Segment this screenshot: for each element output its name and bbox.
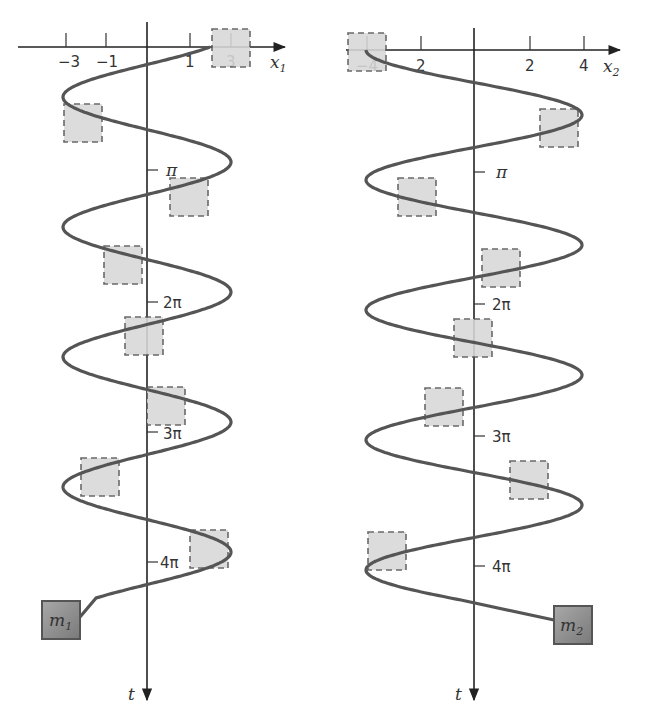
svg-text:4: 4: [579, 57, 589, 75]
svg-text:4π: 4π: [160, 554, 179, 572]
svg-text:π: π: [165, 160, 178, 180]
t-axis-label-left: t: [128, 684, 135, 704]
svg-text:2: 2: [525, 57, 535, 75]
t-ticks-right: π 2π 3π 4π: [474, 162, 511, 576]
left-panel: −3 −1 1 3 x1 π 2π 3π 4π t m1: [18, 22, 287, 704]
ghost-mass-position: [368, 532, 406, 570]
svg-text:π: π: [495, 162, 508, 182]
right-panel: −4 2 2 4 x2 π 2π 3π 4π t m2: [346, 28, 620, 704]
ghost-mass-position: [454, 319, 492, 357]
svg-text:2π: 2π: [492, 296, 511, 314]
t-axis-label-right: t: [455, 684, 462, 704]
ghost-mass-position: [425, 388, 463, 426]
svg-text:3π: 3π: [492, 428, 511, 446]
x1-axis-label: x1: [270, 52, 287, 75]
ghost-mass-position: [64, 104, 102, 142]
x2-ticks: −4 2 2 4: [356, 36, 589, 75]
oscillation-diagram: −3 −1 1 3 x1 π 2π 3π 4π t m1: [0, 0, 648, 728]
x2-axis-label: x2: [603, 56, 620, 79]
svg-text:2π: 2π: [163, 294, 182, 312]
svg-text:4π: 4π: [492, 558, 511, 576]
tick-label: −3: [58, 53, 80, 71]
t-ticks-left: π 2π 3π 4π: [147, 160, 182, 572]
svg-text:3π: 3π: [163, 425, 182, 443]
ghost-mass-position: [212, 29, 250, 67]
tick-label: −1: [96, 53, 118, 71]
